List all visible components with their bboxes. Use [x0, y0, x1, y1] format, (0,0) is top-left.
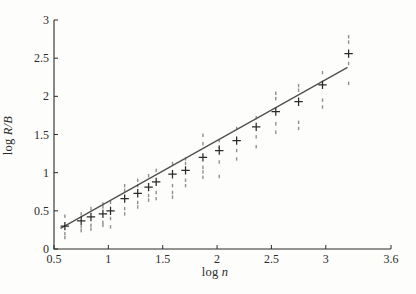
sample-dot	[90, 207, 91, 210]
x-tick-label: 1.5	[155, 252, 170, 266]
sample-dot	[298, 84, 299, 87]
sample-dot	[172, 195, 173, 198]
mean-plus-marker	[61, 222, 69, 230]
sample-dot	[155, 169, 156, 172]
sample-dot	[80, 225, 81, 228]
x-tick-label: 3.6	[384, 252, 399, 266]
x-tick-label: 2	[214, 252, 220, 266]
mean-plus-marker	[181, 166, 189, 174]
mean-plus-marker	[87, 213, 95, 221]
y-tick-label: 2.5	[34, 51, 49, 65]
mean-plus-marker	[144, 183, 152, 191]
sample-dot	[148, 198, 149, 201]
sample-dot	[219, 160, 220, 163]
sample-dot	[275, 131, 276, 134]
sample-dot	[298, 127, 299, 130]
sample-dot	[64, 214, 65, 217]
sample-dot	[185, 179, 186, 182]
sample-dot	[275, 122, 276, 125]
sample-dot	[348, 62, 349, 65]
mean-plus-marker	[199, 153, 207, 161]
sample-dot	[172, 191, 173, 194]
sample-dot	[137, 201, 138, 204]
scatter-figure: 0.511.522.533.600.511.522.53 log n log R…	[0, 0, 416, 294]
sample-dot	[322, 105, 323, 108]
mean-plus-marker	[120, 194, 128, 202]
y-tick-label: 2	[43, 89, 49, 103]
sample-dot	[202, 170, 203, 173]
mean-plus-marker	[152, 178, 160, 186]
sample-dot	[202, 166, 203, 169]
sample-dot	[102, 221, 103, 224]
sample-dot	[124, 212, 125, 215]
mean-plus-marker	[106, 207, 114, 215]
chart-canvas: 0.511.522.533.600.511.522.53	[0, 0, 416, 294]
sample-dot	[110, 225, 111, 228]
y-axis-label-text: log R/B	[1, 116, 15, 155]
sample-dot	[236, 157, 237, 160]
mean-plus-marker	[344, 49, 352, 57]
sample-dot	[90, 224, 91, 227]
sample-dot	[137, 179, 138, 182]
sample-dot	[148, 194, 149, 197]
x-tick-label: 1	[105, 252, 111, 266]
sample-dot	[202, 134, 203, 137]
sample-dot	[348, 82, 349, 85]
sample-dot	[202, 176, 203, 179]
sample-dot	[102, 224, 103, 227]
mean-plus-marker	[215, 146, 223, 154]
sample-dot	[348, 35, 349, 38]
y-tick-label: 1.5	[34, 128, 49, 142]
sample-dot	[185, 162, 186, 165]
sample-dot	[148, 174, 149, 177]
y-axis-label: log R/B	[1, 71, 16, 201]
sample-dot	[64, 232, 65, 235]
sample-dot	[256, 145, 257, 148]
sample-dot	[298, 121, 299, 124]
sample-dot	[102, 205, 103, 208]
x-axis-label-text: log n	[202, 265, 228, 280]
sample-dot	[256, 135, 257, 138]
sample-dot	[155, 191, 156, 194]
x-axis-label: log n	[0, 265, 416, 280]
sample-dot	[80, 212, 81, 215]
y-tick-label: 0	[43, 242, 49, 256]
sample-dot	[137, 205, 138, 208]
sample-dot	[275, 97, 276, 100]
sample-dot	[80, 229, 81, 232]
sample-dot	[322, 98, 323, 101]
mean-plus-marker	[232, 136, 240, 144]
y-tick-label: 3	[43, 13, 49, 27]
sample-dot	[348, 40, 349, 43]
sample-dot	[219, 175, 220, 178]
sample-dot	[172, 184, 173, 187]
sample-dot	[110, 217, 111, 220]
sample-dot	[185, 184, 186, 187]
mean-plus-marker	[168, 170, 176, 178]
sample-dot	[124, 207, 125, 210]
sample-dot	[236, 149, 237, 152]
y-tick-label: 1	[43, 166, 49, 180]
mean-plus-marker	[252, 123, 260, 131]
sample-dot	[275, 92, 276, 95]
fit-line	[61, 67, 348, 228]
mean-plus-marker	[318, 81, 326, 89]
sample-dot	[322, 71, 323, 74]
sample-dot	[90, 227, 91, 230]
x-tick-label: 2.5	[264, 252, 279, 266]
sample-dot	[124, 184, 125, 187]
axis-lines	[54, 20, 391, 249]
x-tick-label: 3	[323, 252, 329, 266]
sample-dot	[298, 89, 299, 92]
mean-plus-marker	[294, 97, 302, 105]
mean-plus-marker	[134, 189, 142, 197]
sample-dot	[64, 236, 65, 239]
sample-dot	[202, 142, 203, 145]
sample-dot	[155, 197, 156, 200]
mean-plus-marker	[99, 210, 107, 218]
y-tick-label: 0.5	[34, 204, 49, 218]
